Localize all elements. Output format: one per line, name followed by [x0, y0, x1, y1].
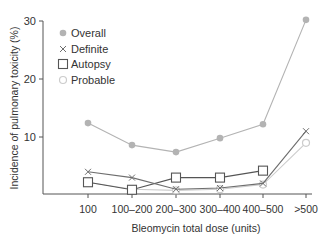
x-tick-label: 200–300	[156, 203, 197, 215]
open-square-marker	[128, 185, 137, 194]
axes: 102030100100–200200–300300–400400–500>50…	[24, 15, 318, 215]
open-square-marker	[216, 173, 225, 182]
x-axis-label: Bleomycin total dose (units)	[132, 222, 261, 234]
series-line	[88, 143, 306, 191]
filled-circle-marker	[260, 121, 267, 128]
open-circle-marker	[173, 187, 180, 194]
open-circle-marker	[303, 139, 310, 146]
x-marker	[60, 46, 66, 52]
legend-item-definite: Definite	[60, 43, 108, 55]
line-chart: 102030100100–200200–300300–400400–500>50…	[0, 0, 325, 238]
series-line	[88, 20, 306, 152]
x-tick-label: 100–200	[112, 203, 153, 215]
x-tick-label: 300–400	[200, 203, 241, 215]
filled-circle-marker	[303, 17, 310, 24]
legend-item-autopsy: Autopsy	[59, 58, 112, 70]
y-tick-label: 20	[24, 73, 36, 85]
series-probable	[85, 139, 310, 194]
x-tick-label: 100	[79, 203, 97, 215]
y-tick-label: 30	[24, 15, 36, 27]
x-tick-label: >500	[294, 203, 318, 215]
open-circle-marker	[260, 181, 267, 188]
legend-item-probable: Probable	[60, 74, 116, 86]
y-axis-label: Incidence of pulmonary toxicity (%)	[8, 27, 20, 190]
legend-item-overall: Overall	[60, 27, 106, 39]
series-overall	[85, 17, 310, 156]
open-square-marker	[259, 166, 268, 175]
filled-circle-marker	[173, 149, 180, 156]
open-square-marker	[172, 173, 181, 182]
open-square-marker	[59, 60, 68, 69]
legend-label: Probable	[71, 74, 115, 86]
open-circle-marker	[217, 186, 224, 193]
filled-circle-marker	[60, 30, 67, 37]
legend-label: Overall	[71, 27, 106, 39]
legend-label: Autopsy	[71, 58, 111, 70]
filled-circle-marker	[85, 120, 92, 127]
legend: OverallDefiniteAutopsyProbable	[59, 27, 116, 86]
open-square-marker	[84, 178, 93, 187]
filled-circle-marker	[217, 135, 224, 142]
y-tick-label: 10	[24, 131, 36, 143]
x-marker	[303, 128, 309, 134]
legend-label: Definite	[71, 43, 108, 55]
x-tick-label: 400–500	[243, 203, 284, 215]
open-circle-marker	[60, 77, 67, 84]
series-layer	[84, 17, 310, 195]
filled-circle-marker	[129, 142, 136, 149]
